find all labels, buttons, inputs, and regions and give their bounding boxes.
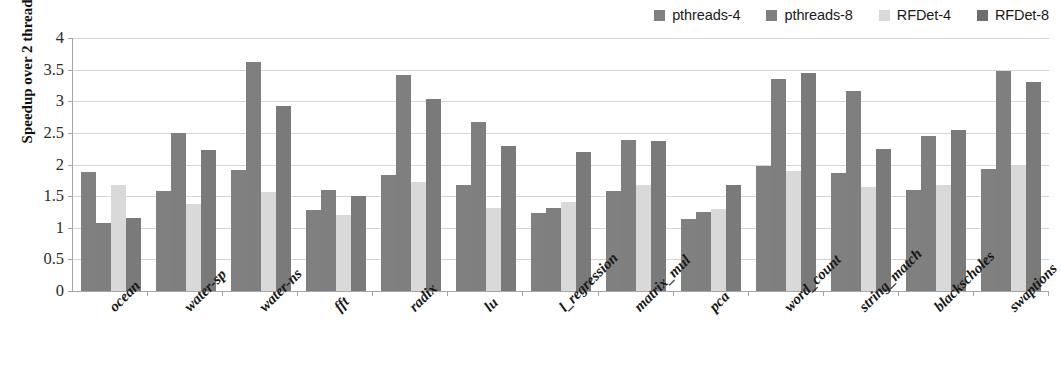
- bar[interactable]: [261, 192, 276, 291]
- bar-group: [448, 38, 523, 291]
- bar[interactable]: [351, 196, 366, 291]
- x-axis-label-slot: fft: [297, 291, 372, 386]
- y-axis-tick-label: 0: [18, 281, 64, 301]
- bars-layer: [73, 38, 1049, 291]
- x-axis-label-slot: l_regression: [522, 291, 597, 386]
- bar[interactable]: [336, 215, 351, 291]
- legend-swatch-icon: [977, 10, 988, 21]
- bar[interactable]: [171, 133, 186, 291]
- legend-entry[interactable]: pthreads-4: [654, 7, 740, 23]
- legend-swatch-icon: [879, 10, 890, 21]
- x-axis-label-slot: string_match: [823, 291, 898, 386]
- bar-group: [749, 38, 824, 291]
- y-axis-tick-label: 1: [18, 218, 64, 238]
- y-axis-tick-label: 3: [18, 91, 64, 111]
- bar[interactable]: [846, 91, 861, 292]
- y-axis-tick-label: 2: [18, 155, 64, 175]
- bar[interactable]: [786, 171, 801, 291]
- y-axis-tick-label: 1.5: [18, 186, 64, 206]
- bar[interactable]: [186, 204, 201, 291]
- bar[interactable]: [486, 208, 501, 291]
- y-axis-tick-label: 3.5: [18, 60, 64, 80]
- bar[interactable]: [1011, 166, 1026, 291]
- bar[interactable]: [396, 75, 411, 291]
- y-axis-tick-label: 4: [18, 28, 64, 48]
- bar[interactable]: [771, 79, 786, 291]
- bar[interactable]: [231, 170, 246, 291]
- chart-legend: pthreads-4pthreads-8RFDet-4RFDet-8: [654, 4, 1049, 26]
- bar[interactable]: [426, 99, 441, 291]
- bar-group: [298, 38, 373, 291]
- bar[interactable]: [801, 73, 816, 291]
- bar-group: [523, 38, 598, 291]
- plot-area: [72, 38, 1049, 292]
- x-axis-label-slot: matrix_mul: [598, 291, 673, 386]
- bar[interactable]: [636, 185, 651, 291]
- x-axis-label-slot: water-sp: [147, 291, 222, 386]
- legend-label: RFDet-8: [995, 7, 1049, 23]
- x-axis-label-slot: pca: [673, 291, 748, 386]
- legend-label: pthreads-4: [672, 7, 740, 23]
- x-axis-tick-label: fft: [331, 293, 353, 315]
- bar[interactable]: [696, 212, 711, 291]
- y-axis-tick-label: 2.5: [18, 123, 64, 143]
- x-axis-label-slot: lu: [447, 291, 522, 386]
- bar[interactable]: [456, 185, 471, 291]
- bar[interactable]: [96, 223, 111, 291]
- legend-entry[interactable]: RFDet-4: [879, 7, 951, 23]
- x-axis-tick-label: lu: [481, 294, 502, 315]
- bar-group: [373, 38, 448, 291]
- bar[interactable]: [936, 185, 951, 291]
- bar[interactable]: [756, 166, 771, 291]
- bar[interactable]: [156, 191, 171, 291]
- x-axis-tick-labels: oceanwater-spwater-nsfftradixlul_regress…: [72, 291, 1048, 386]
- bar-group: [73, 38, 148, 291]
- bar[interactable]: [546, 208, 561, 291]
- bar[interactable]: [951, 130, 966, 291]
- bar[interactable]: [861, 187, 876, 291]
- bar[interactable]: [246, 62, 261, 291]
- x-axis-label-slot: radix: [372, 291, 447, 386]
- bar[interactable]: [906, 190, 921, 291]
- bar-group: [674, 38, 749, 291]
- bar[interactable]: [531, 213, 546, 291]
- x-axis-label-slot: blackscholes: [898, 291, 973, 386]
- x-axis-label-slot: water-ns: [222, 291, 297, 386]
- x-axis-tick-label: pca: [706, 288, 733, 315]
- bar[interactable]: [501, 146, 516, 291]
- y-axis-tick-label: 0.5: [18, 249, 64, 269]
- bar[interactable]: [381, 175, 396, 291]
- bar[interactable]: [1026, 82, 1041, 291]
- legend-label: pthreads-8: [784, 7, 852, 23]
- bar[interactable]: [276, 106, 291, 291]
- x-axis-label-slot: swaptions: [973, 291, 1048, 386]
- legend-swatch-icon: [766, 10, 777, 21]
- bar[interactable]: [561, 202, 576, 291]
- legend-entry[interactable]: RFDet-8: [977, 7, 1049, 23]
- bar[interactable]: [621, 140, 636, 291]
- bar[interactable]: [711, 209, 726, 291]
- bar-group: [148, 38, 223, 291]
- bar[interactable]: [471, 122, 486, 291]
- legend-label: RFDet-4: [897, 7, 951, 23]
- bar[interactable]: [996, 71, 1011, 291]
- bar[interactable]: [321, 190, 336, 291]
- bar[interactable]: [921, 136, 936, 291]
- bar[interactable]: [306, 210, 321, 291]
- bar[interactable]: [81, 172, 96, 291]
- bar[interactable]: [411, 182, 426, 291]
- legend-swatch-icon: [654, 10, 665, 21]
- bar-group: [223, 38, 298, 291]
- bar[interactable]: [111, 185, 126, 291]
- x-axis-label-slot: ocean: [72, 291, 147, 386]
- bar[interactable]: [606, 191, 621, 291]
- x-axis-label-slot: word_count: [748, 291, 823, 386]
- bar[interactable]: [726, 185, 741, 291]
- legend-entry[interactable]: pthreads-8: [766, 7, 852, 23]
